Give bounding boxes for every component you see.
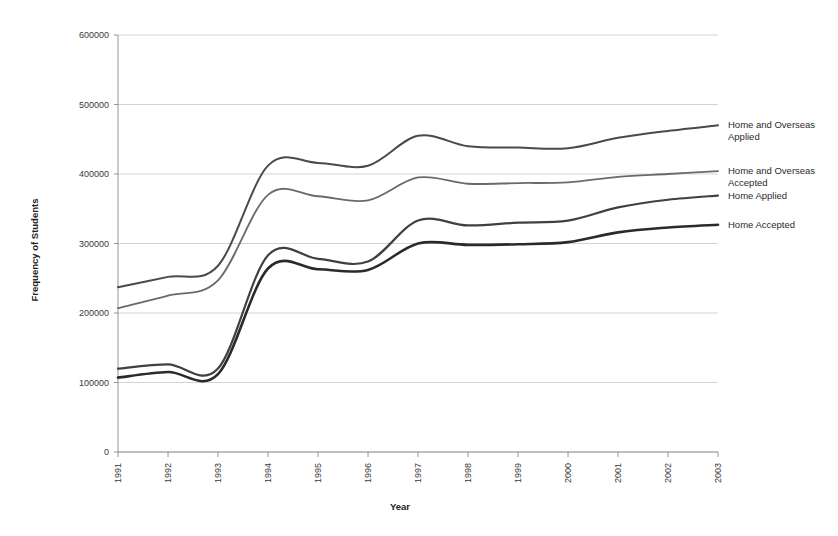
x-tick-label: 2000 bbox=[563, 463, 573, 483]
y-tick-label: 100000 bbox=[79, 378, 109, 388]
x-tick-label: 1999 bbox=[513, 463, 523, 483]
legend-label: Home and Overseas bbox=[728, 119, 815, 130]
legend-label-continued: Applied bbox=[728, 131, 760, 142]
legend-label: Home Accepted bbox=[728, 219, 795, 230]
y-tick-label: 0 bbox=[104, 447, 109, 457]
y-tick-label: 600000 bbox=[79, 30, 109, 40]
legend-label: Home and Overseas bbox=[728, 165, 815, 176]
x-tick-label: 1996 bbox=[363, 463, 373, 483]
chart-canvas: 0100000200000300000400000500000600000 19… bbox=[0, 0, 838, 536]
x-tick-label: 1992 bbox=[163, 463, 173, 483]
y-tick-label: 300000 bbox=[79, 239, 109, 249]
x-tick-label: 2001 bbox=[613, 463, 623, 483]
y-tick-label: 400000 bbox=[79, 169, 109, 179]
x-tick-label: 1998 bbox=[463, 463, 473, 483]
x-axis-title: Year bbox=[390, 501, 410, 512]
x-tick-label: 1995 bbox=[313, 463, 323, 483]
y-tick-label: 500000 bbox=[79, 100, 109, 110]
x-tick-label: 1991 bbox=[113, 463, 123, 483]
x-tick-label: 2002 bbox=[663, 463, 673, 483]
x-tick-label: 1997 bbox=[413, 463, 423, 483]
x-tick-label: 2003 bbox=[713, 463, 723, 483]
y-axis-title: Frequency of Students bbox=[29, 199, 40, 302]
legend-label: Home Applied bbox=[728, 190, 787, 201]
y-tick-label: 200000 bbox=[79, 308, 109, 318]
legend-label-continued: Accepted bbox=[728, 177, 768, 188]
chart-background bbox=[0, 0, 838, 536]
x-tick-label: 1994 bbox=[263, 463, 273, 483]
line-chart: 0100000200000300000400000500000600000 19… bbox=[0, 0, 838, 536]
x-tick-label: 1993 bbox=[213, 463, 223, 483]
